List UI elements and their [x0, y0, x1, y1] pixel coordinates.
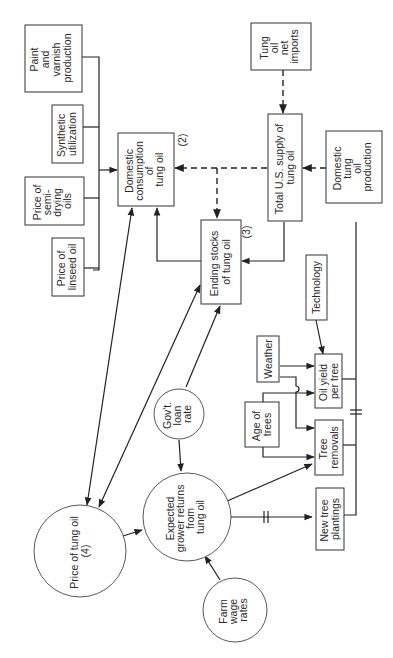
node-price-semi-drying-oils: Price of semi- drying oils [25, 177, 84, 225]
node-tag: (3) [240, 226, 252, 239]
node-tree-removals: Tree removals [315, 420, 343, 475]
edge-loan-to-returns [179, 440, 181, 471]
node-domestic-tung-oil-production: Domestic tung oil production [326, 131, 382, 203]
edge-price-to-returns [123, 530, 142, 536]
svg-text:New tree plantings: New tree plantings [318, 497, 341, 542]
node-tag: (2) [176, 134, 188, 147]
edge-loan-to-stocks [186, 306, 220, 387]
svg-text:Technology: Technology [310, 260, 322, 314]
node-price-linseed-oil: Price of linseed oil [52, 238, 84, 296]
node-tung-oil-net-imports: Tung oil net imports [251, 23, 311, 70]
edge-wage-to-returns [205, 556, 220, 580]
node-ending-stocks: Ending stocks of tung oil (3) [201, 220, 252, 304]
svg-text:Synthetic utilization: Synthetic utilization [55, 111, 78, 157]
node-total-us-supply: Total U.S. supply of tung oil [268, 114, 302, 221]
node-price-of-tung-oil: Price of tung oil (4) [34, 505, 126, 597]
svg-text:Price of linseed oil: Price of linseed oil [55, 244, 78, 291]
edge-returns-to-removals [225, 464, 312, 502]
node-farm-wage-rates: Farm wage rates [203, 578, 267, 642]
edge-technology-to-yield [316, 320, 323, 354]
node-govt-loan-rate: Gov't. loan rate [154, 389, 204, 439]
edge-age-to-removals [263, 447, 314, 457]
node-technology: Technology [306, 255, 327, 320]
node-paint-varnish: Paint and varnish production [25, 25, 82, 92]
svg-text:Weather: Weather [262, 339, 274, 379]
edge-production-bus [343, 222, 356, 515]
edge-price-consumption [87, 208, 132, 505]
node-domestic-consumption: Domestic consumption of tung oil (2) [118, 133, 188, 206]
svg-text:Oil yield per tree: Oil yield per tree [317, 361, 340, 401]
node-weather: Weather [257, 336, 279, 382]
svg-text:Farm wage rates: Farm wage rates [217, 596, 249, 625]
svg-text:Age of trees: Age of trees [250, 408, 273, 441]
tung-oil-flow-diagram: Paint and varnish production Synthetic u… [0, 0, 393, 658]
node-new-tree-plantings: New tree plantings [316, 488, 344, 550]
node-age-of-trees: Age of trees [245, 402, 279, 447]
edge-paint-varnish [82, 57, 99, 270]
node-oil-yield-per-tree: Oil yield per tree [315, 354, 342, 408]
node-expected-grower-returns: Expected grower returns from tung oil [143, 473, 231, 561]
edge-stocks-to-consumption [157, 208, 201, 261]
node-synthetic-utilization: Synthetic utilization [52, 105, 83, 163]
edge-weather-to-removals [280, 377, 314, 428]
edge-age-to-yield [263, 393, 314, 402]
